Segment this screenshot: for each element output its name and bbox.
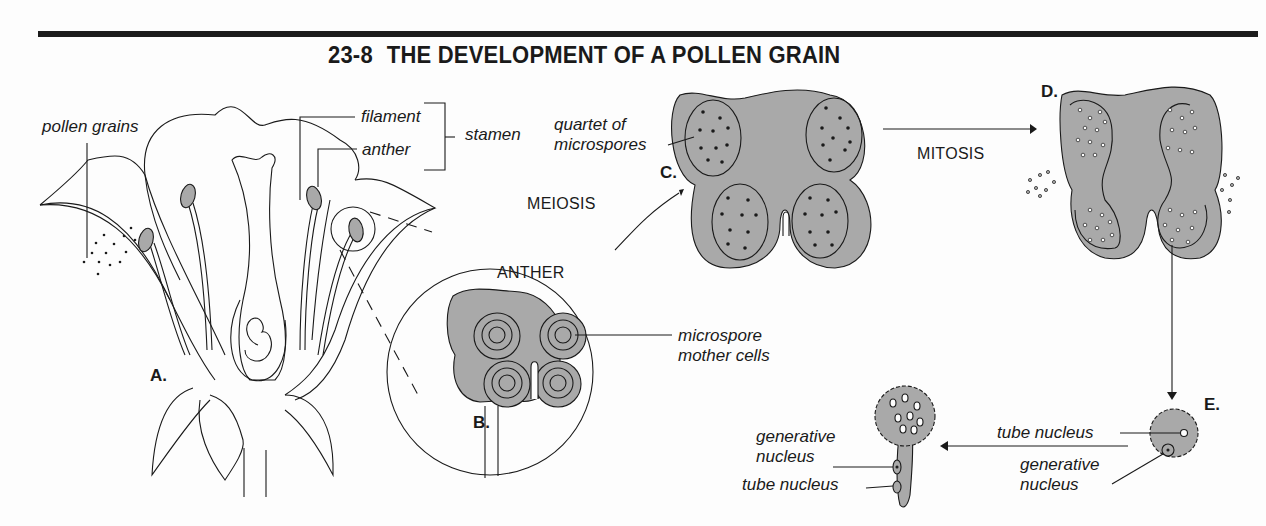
label-e-tube-nucleus: tube nucleus <box>997 423 1093 443</box>
microspore-quartet <box>668 90 871 268</box>
label-anther: anther <box>362 140 410 160</box>
panel-letter-a: A. <box>150 366 167 386</box>
panel-letter-d: D. <box>1041 82 1058 102</box>
label-anther-heading: ANTHER <box>497 263 565 283</box>
label-quartet-2: microspores <box>554 135 647 155</box>
label-e-generative-2: nucleus <box>1020 475 1079 495</box>
panel-letter-e: E. <box>1204 395 1220 415</box>
label-f-tube-nucleus: tube nucleus <box>742 475 838 495</box>
label-e-generative-1: generative <box>1020 455 1099 475</box>
label-mitosis: MITOSIS <box>917 144 985 164</box>
label-f-generative-2: nucleus <box>756 447 815 467</box>
label-f-generative-1: generative <box>756 427 835 447</box>
mature-anther <box>1026 87 1239 400</box>
label-microspore-mother-cells-1: microspore <box>678 326 762 346</box>
label-meiosis: MEIOSIS <box>527 194 596 214</box>
diagram-artwork <box>0 0 1266 526</box>
germinating-pollen-grain <box>833 386 935 507</box>
flower-illustration <box>40 103 455 497</box>
panel-letter-b: B. <box>473 413 490 433</box>
label-stamen: stamen <box>465 125 521 145</box>
label-pollen-grains: pollen grains <box>42 117 138 137</box>
label-filament: filament <box>361 107 421 127</box>
label-quartet-1: quartet of <box>554 115 626 135</box>
panel-letter-c: C. <box>660 163 677 183</box>
anther-cross-section <box>387 269 672 478</box>
label-microspore-mother-cells-2: mother cells <box>678 346 770 366</box>
